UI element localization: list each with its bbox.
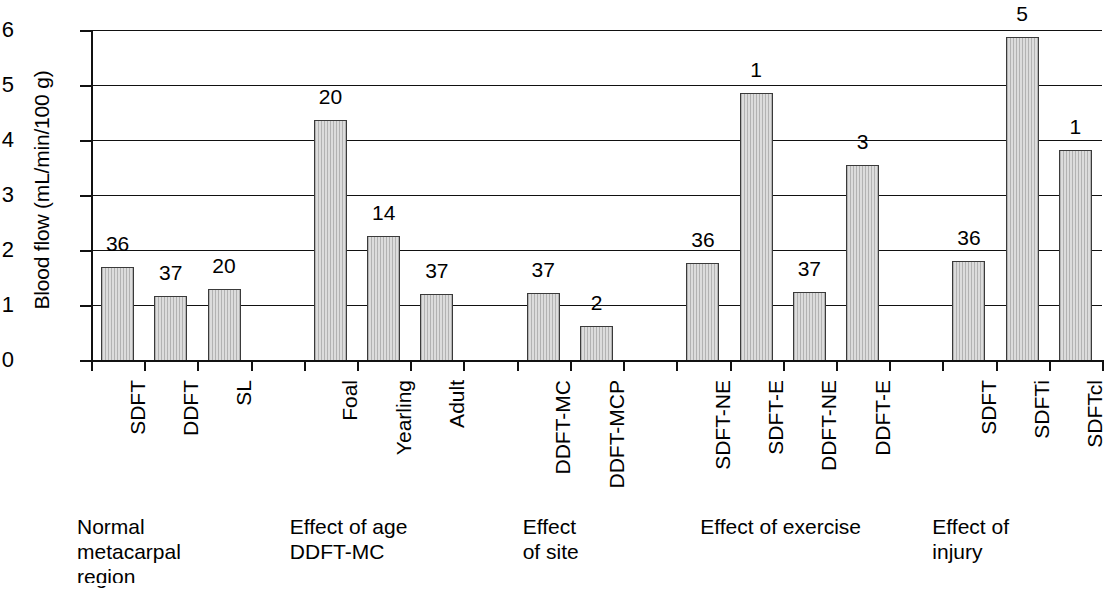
bar-value-label: 20 [288, 86, 373, 107]
gridline [91, 85, 1102, 86]
x-tick-mark [730, 360, 732, 371]
x-category-label: DDFT-E [872, 380, 893, 456]
bar [420, 294, 453, 360]
x-tick-mark [251, 360, 253, 371]
gridline [91, 250, 1102, 251]
bar [154, 296, 187, 360]
bar [1059, 150, 1092, 360]
x-category-label: SDFT-E [765, 380, 786, 455]
group-caption: Effect of exercise [700, 514, 861, 539]
bar-value-label: 37 [394, 260, 479, 281]
bar-value-label: 14 [341, 202, 426, 223]
y-tick-mark [80, 30, 91, 32]
gridline [91, 30, 1102, 31]
x-category-label: SDFT-NE [712, 380, 733, 470]
bar-value-label: 1 [714, 59, 799, 80]
x-axis-line [91, 360, 1102, 362]
x-tick-mark [410, 360, 412, 371]
x-tick-mark [942, 360, 944, 371]
x-tick-mark [357, 360, 359, 371]
y-tick-label: 3 [0, 184, 14, 206]
bar-value-label: 36 [75, 233, 160, 254]
bar-value-label: 3 [820, 131, 905, 152]
x-tick-mark [676, 360, 678, 371]
gridline [91, 140, 1102, 141]
y-tick-mark [80, 140, 91, 142]
group-caption: Effect of age DDFT-MC [290, 514, 408, 564]
x-tick-mark [463, 360, 465, 371]
bar [208, 289, 241, 361]
x-category-label: Foal [339, 380, 360, 421]
bar-value-label: 5 [980, 3, 1065, 24]
y-tick-label: 4 [0, 129, 14, 151]
x-tick-mark [144, 360, 146, 371]
x-tick-mark [91, 360, 93, 371]
bar [1006, 37, 1039, 360]
x-category-label: DDFT-MCP [606, 380, 627, 489]
bar-value-label: 37 [767, 258, 852, 279]
y-tick-mark [80, 85, 91, 87]
bar-value-label: 37 [501, 259, 586, 280]
x-tick-mark [1049, 360, 1051, 371]
x-tick-mark [304, 360, 306, 371]
bar [793, 292, 826, 360]
x-tick-mark [889, 360, 891, 371]
bar [314, 120, 347, 360]
x-tick-mark [570, 360, 572, 371]
x-tick-mark [836, 360, 838, 371]
y-tick-mark [80, 360, 91, 362]
x-category-label: DDFT-NE [818, 380, 839, 471]
bar [952, 261, 985, 360]
bar-value-label: 36 [926, 227, 1011, 248]
x-category-label: SDFT [127, 380, 148, 435]
x-category-label: Adult [446, 380, 467, 428]
x-category-label: Yearling [393, 380, 414, 455]
x-tick-mark [517, 360, 519, 371]
bar [367, 236, 400, 360]
bar [580, 326, 613, 360]
y-tick-label: 0 [0, 349, 14, 371]
x-category-label: DDFT [180, 380, 201, 436]
group-caption: Effect of injury [932, 514, 1009, 564]
y-tick-label: 1 [0, 294, 14, 316]
x-tick-mark [996, 360, 998, 371]
bar-value-label: 1 [1033, 116, 1108, 137]
bar-value-label: 36 [660, 229, 745, 250]
y-tick-mark [80, 305, 91, 307]
x-category-label: SDFTcl [1084, 380, 1105, 448]
scan-edge [0, 583, 1102, 586]
group-caption: Effect of site [523, 514, 579, 564]
x-category-label: DDFT-MC [552, 380, 573, 474]
bar-value-label: 20 [181, 255, 266, 276]
plot-area: 0123456 3637202014373723613733651 [91, 30, 1102, 360]
x-category-label: SDFTi [1031, 380, 1052, 439]
y-tick-label: 5 [0, 74, 14, 96]
y-tick-mark [80, 195, 91, 197]
group-caption: Normal metacarpal region [77, 514, 181, 589]
y-axis-title: Blood flow (mL/min/100 g) [30, 20, 54, 360]
gridline [91, 195, 1102, 196]
x-tick-mark [783, 360, 785, 371]
x-tick-mark [197, 360, 199, 371]
x-category-label: SDFT [978, 380, 999, 435]
bar [686, 263, 719, 360]
x-tick-mark [623, 360, 625, 371]
x-tick-mark [1102, 360, 1104, 371]
y-tick-label: 6 [0, 19, 14, 41]
x-category-label: SL [233, 380, 254, 406]
y-tick-label: 2 [0, 239, 14, 261]
bar [740, 93, 773, 360]
bar-value-label: 2 [554, 292, 639, 313]
